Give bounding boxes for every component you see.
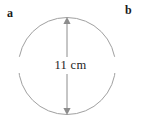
diameter-measurement-label: 11 cm <box>0 57 141 73</box>
circle-diameter-figure: a b 11 cm <box>0 0 141 133</box>
